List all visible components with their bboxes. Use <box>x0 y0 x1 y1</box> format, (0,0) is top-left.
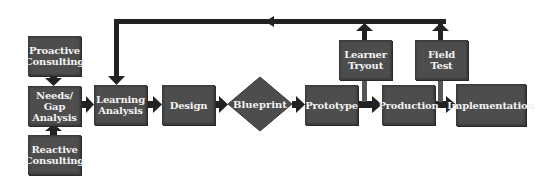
node-blueprint: Blueprint <box>228 94 292 114</box>
node-proactive-consulting: Proactive Consulting <box>28 36 81 76</box>
arrow-into-learning <box>108 76 125 85</box>
node-prototype: Prototype <box>305 85 358 125</box>
node-implementation: Implementation <box>456 84 526 126</box>
node-production: Production <box>382 85 435 125</box>
node-learner-tryout: Learner Tryout <box>339 40 392 80</box>
node-learning-analysis: Learning Analysis <box>94 85 147 125</box>
node-needs-gap-analysis: Needs/ Gap Analysis <box>28 86 81 126</box>
node-design: Design <box>162 85 215 125</box>
node-field-test: Field Test <box>415 40 468 80</box>
node-reactive-consulting: Reactive Consulting <box>28 135 81 175</box>
